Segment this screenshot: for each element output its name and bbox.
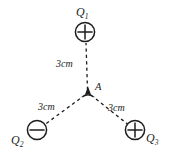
point-a-marker — [80, 87, 96, 98]
charge-label-q1-subscript: 1 — [85, 12, 89, 21]
charge-label-q2-base: Q — [11, 133, 20, 147]
physics-diagram-canvas: Q1 Q2 Q3 A 3cm 3cm 3cm — [0, 0, 172, 156]
point-label-a: A — [95, 82, 101, 93]
charge-label-q3-subscript: 3 — [155, 138, 159, 147]
charge-label-q2: Q2 — [11, 134, 23, 146]
charge-q2-symbol-circled-minus — [27, 120, 46, 139]
distance-label-a-to-q3: 3cm — [108, 103, 125, 113]
distance-label-a-to-q1: 3cm — [56, 59, 73, 69]
distance-label-a-to-q2: 3cm — [38, 102, 55, 112]
connector-a-to-q1 — [86, 43, 88, 90]
charge-q3-symbol-circled-plus — [125, 120, 144, 139]
charge-label-q3: Q3 — [146, 132, 158, 144]
charge-label-q3-base: Q — [146, 131, 155, 145]
charge-label-q2-subscript: 2 — [20, 140, 24, 149]
charge-label-q1-base: Q — [76, 5, 85, 19]
charge-label-q1: Q1 — [76, 6, 88, 18]
charge-q1-symbol-circled-plus — [75, 22, 94, 41]
